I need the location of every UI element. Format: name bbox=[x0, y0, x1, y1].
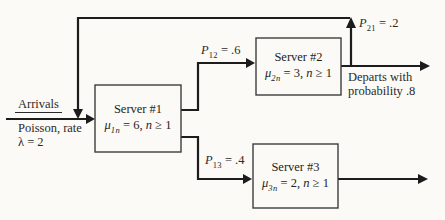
departs-label: Departs with probability .8 bbox=[348, 71, 415, 98]
arrowhead-right-icon bbox=[243, 174, 252, 184]
server3-box: Server #3 μ3n = 2, n ≥ 1 bbox=[254, 145, 337, 207]
p13-value: = .4 bbox=[222, 153, 245, 167]
p13-subscript: 13 bbox=[213, 160, 222, 170]
server3-title: Server #3 bbox=[271, 160, 319, 175]
departs-line1: Departs with bbox=[348, 71, 415, 85]
p12-subscript: 12 bbox=[209, 50, 218, 60]
p13-label: P13 = .4 bbox=[205, 153, 244, 172]
p12-symbol: P bbox=[201, 43, 209, 57]
arrowhead-right-icon bbox=[418, 174, 428, 184]
p13-symbol: P bbox=[205, 153, 213, 167]
branch-to-server2 bbox=[181, 63, 247, 110]
departs-line2: probability .8 bbox=[348, 85, 415, 99]
arrowhead-right-icon bbox=[420, 61, 430, 71]
arrowhead-right-icon bbox=[86, 114, 95, 124]
server3-rate: μ3n = 2, n ≥ 1 bbox=[262, 176, 329, 193]
p12-label: P12 = .6 bbox=[201, 43, 240, 62]
server2-box: Server #2 μ2n = 3, n ≥ 1 bbox=[257, 39, 340, 94]
queueing-network-diagram: Arrivals Poisson, rate λ = 2 P12 = .6 P1… bbox=[0, 0, 445, 220]
server1-box: Server #1 μ1n = 6, n ≥ 1 bbox=[96, 86, 180, 151]
arrivals-label: Arrivals bbox=[15, 97, 62, 113]
poisson-rate-label: Poisson, rate bbox=[18, 121, 82, 135]
server2-title: Server #2 bbox=[274, 50, 322, 65]
server2-rate: μ2n = 3, n ≥ 1 bbox=[265, 66, 332, 83]
p12-value: = .6 bbox=[218, 43, 241, 57]
server1-title: Server #1 bbox=[114, 102, 162, 117]
n-cond: ≥ 1 bbox=[310, 176, 329, 190]
p21-label: P21 = .2 bbox=[359, 16, 398, 35]
p21-symbol: P bbox=[359, 16, 367, 30]
p21-subscript: 21 bbox=[367, 23, 376, 33]
mu-eq: = 3, bbox=[280, 66, 306, 80]
server1-rate: μ1n = 6, n ≥ 1 bbox=[105, 118, 172, 135]
lambda-label: λ = 2 bbox=[18, 135, 44, 149]
arrowhead-right-icon bbox=[246, 58, 255, 68]
mu-eq: = 6, bbox=[120, 118, 146, 132]
n-cond: ≥ 1 bbox=[152, 118, 171, 132]
mu-subscript: 1n bbox=[111, 125, 120, 135]
n-cond: ≥ 1 bbox=[313, 66, 332, 80]
arrowhead-down-icon bbox=[73, 109, 83, 119]
p21-value: = .2 bbox=[376, 16, 399, 30]
mu-eq: = 2, bbox=[277, 176, 303, 190]
